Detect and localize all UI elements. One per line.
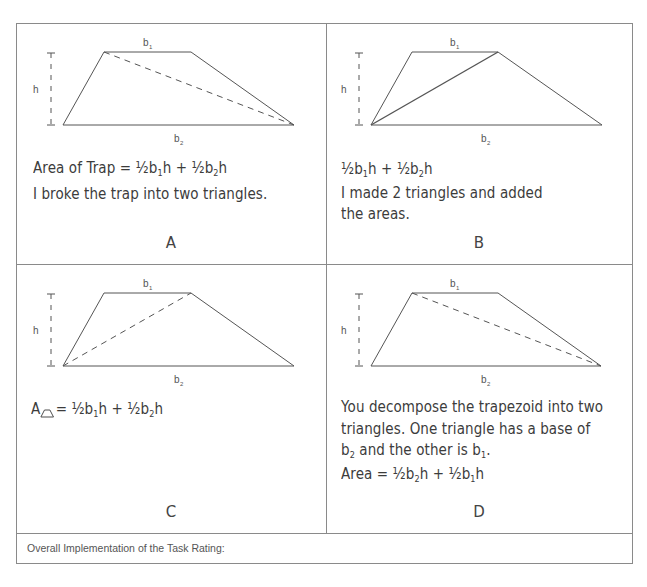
svg-text:1: 1 — [149, 44, 153, 50]
cell-letter: C — [151, 503, 191, 521]
cell-c: h b1 b2 A= ½b1h + ½b2h C — [17, 265, 326, 533]
svg-text:2: 2 — [487, 381, 491, 387]
trapezoid-diagram-a: h b1 b2 — [17, 24, 326, 154]
svg-text:2: 2 — [180, 381, 184, 387]
svg-text:h: h — [341, 84, 347, 95]
cell-letter: B — [459, 234, 499, 252]
trapezoid-diagram-b: h b1 b2 — [326, 24, 634, 154]
svg-text:1: 1 — [456, 285, 460, 291]
answer-formula: Area = ½b2h + ½b1h — [341, 465, 484, 489]
trapezoid-diagram-c: h b1 b2 — [17, 265, 326, 395]
trapezoid-diagram-d: h b1 b2 — [326, 265, 634, 395]
task-rating-sheet: h b1 b2 Area of Trap = ½b1h + ½b2h I bro… — [16, 23, 633, 564]
answer-formula: A= ½b1h + ½b2h — [31, 400, 163, 424]
answer-explanation-line-1: I made 2 triangles and added — [341, 184, 543, 203]
trapezoid-subscript-icon — [40, 409, 54, 418]
svg-text:h: h — [33, 325, 39, 336]
answer-formula: ½b1h + ½b2h — [341, 160, 433, 184]
answer-explanation: I broke the trap into two triangles. — [33, 185, 267, 204]
footer-divider — [17, 533, 632, 534]
overall-rating-label: Overall Implementation of the Task Ratin… — [27, 542, 225, 554]
answer-explanation-line-2: the areas. — [341, 205, 410, 224]
cell-b: h b1 b2 ½b1h + ½b2h I made 2 triangles a… — [326, 24, 634, 264]
cell-letter: D — [459, 503, 499, 521]
cell-a: h b1 b2 Area of Trap = ½b1h + ½b2h I bro… — [17, 24, 326, 264]
answer-explanation-line-2: triangles. One triangle has a base of — [341, 420, 590, 439]
svg-text:2: 2 — [487, 140, 491, 146]
cell-d: h b1 b2 You decompose the trapezoid into… — [326, 265, 634, 533]
svg-text:1: 1 — [456, 44, 460, 50]
height-label: h — [33, 84, 39, 95]
answer-explanation-line-1: You decompose the trapezoid into two — [341, 398, 603, 417]
answer-explanation-line-3: b2 and the other is b1. — [341, 441, 491, 465]
cell-letter: A — [151, 234, 191, 252]
svg-text:1: 1 — [149, 285, 153, 291]
svg-text:h: h — [341, 325, 347, 336]
svg-text:2: 2 — [180, 140, 184, 146]
answer-formula: Area of Trap = ½b1h + ½b2h — [33, 159, 227, 183]
